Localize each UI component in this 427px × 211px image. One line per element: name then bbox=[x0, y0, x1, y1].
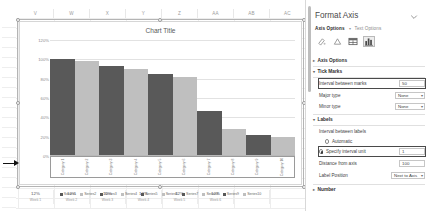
interval-between-marks-row[interactable]: Interval between marks 50 bbox=[319, 79, 425, 88]
effects-icon[interactable] bbox=[331, 36, 343, 47]
cell-label-5[interactable]: Week 6 bbox=[198, 197, 234, 204]
cell-label-6[interactable] bbox=[234, 197, 270, 204]
bar-slot-7[interactable] bbox=[222, 40, 247, 156]
bar-1[interactable] bbox=[75, 61, 100, 156]
row-header-1[interactable] bbox=[2, 28, 16, 38]
major-type-select[interactable]: None ▾ bbox=[395, 92, 425, 100]
column-header-aa[interactable]: AA bbox=[198, 9, 234, 18]
column-header-row[interactable]: VWXYZAAABAC bbox=[18, 9, 305, 18]
bar-slot-6[interactable] bbox=[197, 40, 222, 156]
row-header-2[interactable] bbox=[2, 38, 16, 48]
cell-label-2[interactable]: Week 3 bbox=[90, 197, 126, 204]
bar-slot-1[interactable] bbox=[75, 40, 100, 156]
specify-interval-input[interactable]: 1 bbox=[399, 148, 425, 156]
radio-automatic[interactable] bbox=[325, 139, 329, 143]
row-header-10[interactable] bbox=[2, 118, 16, 128]
section-labels[interactable]: ▾ Labels bbox=[313, 116, 425, 123]
automatic-radio-row[interactable]: Automatic bbox=[325, 137, 425, 146]
row-header-6[interactable] bbox=[2, 78, 16, 88]
bar-slot-2[interactable] bbox=[99, 40, 124, 156]
column-header-x[interactable]: X bbox=[90, 9, 126, 18]
cell-label-1[interactable]: Week 2 bbox=[54, 197, 90, 204]
section-number[interactable]: ▸ Number bbox=[313, 186, 425, 193]
legend-item-2[interactable]: Series3 bbox=[100, 192, 116, 196]
axis-options-icon[interactable] bbox=[363, 36, 375, 47]
legend-item-0[interactable]: Series1 bbox=[60, 192, 76, 196]
row-header-4[interactable] bbox=[2, 58, 16, 68]
row-header-12[interactable] bbox=[2, 138, 16, 148]
bar-2[interactable] bbox=[99, 66, 124, 156]
chart-legend[interactable]: Series1Series2Series3Series4Series5Serie… bbox=[20, 192, 301, 196]
section-tick-marks[interactable]: ▾ Tick Marks bbox=[313, 68, 425, 75]
legend-item-8[interactable]: Series9 bbox=[223, 192, 239, 196]
row-header-15[interactable] bbox=[2, 168, 16, 178]
legend-item-1[interactable]: Series2 bbox=[80, 192, 96, 196]
tab-axis-options[interactable]: Axis Options bbox=[315, 26, 345, 31]
legend-item-7[interactable]: Series8 bbox=[202, 192, 218, 196]
interval-between-marks-input[interactable]: 50 bbox=[399, 80, 425, 88]
bar-7[interactable] bbox=[222, 129, 247, 156]
row-header-16[interactable] bbox=[2, 178, 16, 188]
chevron-down-icon[interactable] bbox=[410, 13, 418, 21]
label-position-select[interactable]: Next to Axis ▾ bbox=[391, 172, 425, 180]
major-type-row[interactable]: Major type None ▾ bbox=[319, 91, 425, 100]
tab-text-options[interactable]: Text Options bbox=[355, 26, 382, 31]
format-axis-pane[interactable]: Format Axis Axis Options ▾ Text Options bbox=[305, 0, 427, 211]
pane-tab-list[interactable]: Axis Options ▾ Text Options bbox=[315, 26, 381, 31]
distance-from-axis-input[interactable]: 100 bbox=[399, 160, 425, 168]
cell-label-0[interactable]: Week 1 bbox=[18, 197, 54, 204]
cell-label-7[interactable] bbox=[270, 197, 305, 204]
plot-area[interactable] bbox=[50, 40, 295, 156]
row-header-9[interactable] bbox=[2, 108, 16, 118]
row-header-17[interactable] bbox=[2, 188, 16, 198]
pane-scrollbar[interactable] bbox=[308, 6, 311, 92]
bar-6[interactable] bbox=[197, 111, 222, 156]
cell-label-4[interactable]: Week 5 bbox=[162, 197, 198, 204]
column-header-ab[interactable]: AB bbox=[234, 9, 270, 18]
cell-label-3[interactable]: Week 4 bbox=[126, 197, 162, 204]
row-header-11[interactable] bbox=[2, 128, 16, 138]
legend-item-6[interactable]: Series7 bbox=[182, 192, 198, 196]
fill-line-icon[interactable] bbox=[315, 36, 327, 47]
chart-title[interactable]: Chart Title bbox=[20, 27, 301, 34]
legend-item-4[interactable]: Series5 bbox=[141, 192, 157, 196]
row-header-3[interactable] bbox=[2, 48, 16, 58]
label-cell-row[interactable]: Week 1Week 2Week 3Week 4Week 5Week 6 bbox=[18, 197, 305, 204]
column-header-y[interactable]: Y bbox=[126, 9, 162, 18]
bar-9[interactable] bbox=[271, 137, 296, 156]
column-header-ac[interactable]: AC bbox=[270, 9, 305, 18]
chart-object[interactable]: Chart Title 120%100%80%60%40%20%0% Categ… bbox=[19, 21, 302, 185]
distance-from-axis-row[interactable]: Distance from axis 100 bbox=[319, 159, 425, 168]
row-header-column[interactable] bbox=[2, 18, 16, 208]
row-header-8[interactable] bbox=[2, 98, 16, 108]
bar-slot-4[interactable] bbox=[148, 40, 173, 156]
column-header-v[interactable]: V bbox=[18, 9, 54, 18]
row-header-13[interactable] bbox=[2, 148, 16, 158]
legend-item-3[interactable]: Series4 bbox=[121, 192, 137, 196]
bar-slot-8[interactable] bbox=[246, 40, 271, 156]
bar-slot-0[interactable] bbox=[50, 40, 75, 156]
row-header-18[interactable] bbox=[2, 198, 16, 208]
x-axis-labels[interactable]: Category 1Category 2Category 3Category 4… bbox=[50, 156, 295, 178]
bar-5[interactable] bbox=[173, 77, 198, 156]
pane-icon-toolbar[interactable] bbox=[315, 36, 375, 47]
bar-slot-5[interactable] bbox=[173, 40, 198, 156]
y-axis-labels[interactable]: 120%100%80%60%40%20%0% bbox=[28, 40, 50, 156]
legend-item-9[interactable]: Series10 bbox=[243, 192, 261, 196]
bar-0[interactable] bbox=[50, 59, 75, 156]
minor-type-select[interactable]: None ▾ bbox=[395, 103, 425, 111]
specify-interval-row[interactable]: Specify interval unit 1 bbox=[319, 147, 425, 156]
bar-4[interactable] bbox=[148, 74, 173, 156]
column-header-z[interactable]: Z bbox=[162, 9, 198, 18]
minor-type-row[interactable]: Minor type None ▾ bbox=[319, 102, 425, 111]
bar-slot-9[interactable] bbox=[271, 40, 296, 156]
bar-8[interactable] bbox=[246, 135, 271, 156]
section-axis-options[interactable]: ▸ Axis Options bbox=[313, 57, 425, 64]
column-header-w[interactable]: W bbox=[54, 9, 90, 18]
bar-3[interactable] bbox=[124, 69, 149, 156]
row-header-5[interactable] bbox=[2, 68, 16, 78]
radio-specify-interval[interactable] bbox=[319, 149, 323, 153]
bar-series-container[interactable] bbox=[50, 40, 295, 156]
label-position-row[interactable]: Label Position Next to Axis ▾ bbox=[319, 171, 425, 180]
legend-item-5[interactable]: Series6 bbox=[162, 192, 178, 196]
